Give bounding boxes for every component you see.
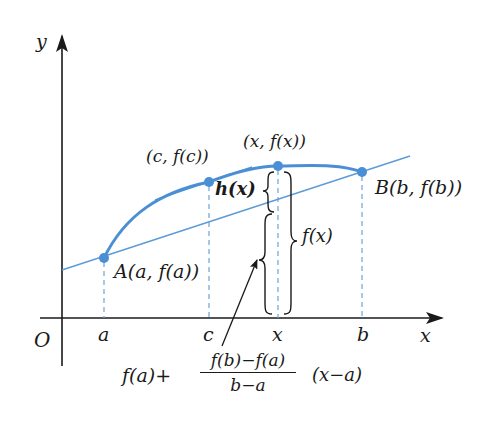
point-label-A: A(a, f(a)) <box>114 262 199 281</box>
tick-label-x: x <box>272 325 283 344</box>
point-B <box>357 167 367 177</box>
tick-label-b: b <box>357 325 369 344</box>
point-A <box>99 253 109 263</box>
formula-numerator: f(b)−f(a) <box>200 352 296 373</box>
tick-label-c: c <box>203 325 214 344</box>
formula-tail: (x−a) <box>312 366 362 384</box>
point-label-X: (x, f(x)) <box>243 133 306 150</box>
origin-label: O <box>34 330 50 350</box>
brace-secant-value <box>259 214 272 314</box>
brace-label-f: f(x) <box>302 227 333 245</box>
formula-lead: f(a)+ <box>122 366 171 385</box>
tick-label-a: a <box>98 325 109 344</box>
brace-h <box>263 172 274 212</box>
point-X <box>273 161 283 171</box>
y-axis-label: y <box>36 32 47 51</box>
point-C <box>204 177 214 187</box>
point-label-C: (c, f(c)) <box>146 148 209 165</box>
formula-denominator: b−a <box>200 373 296 394</box>
point-label-B: B(b, f(b)) <box>375 178 462 197</box>
brace-label-h: h(x) <box>215 180 256 198</box>
formula-fraction: f(b)−f(a) b−a <box>200 352 296 394</box>
formula-pointer-arrow <box>222 260 257 346</box>
x-axis-label: x <box>420 326 431 345</box>
